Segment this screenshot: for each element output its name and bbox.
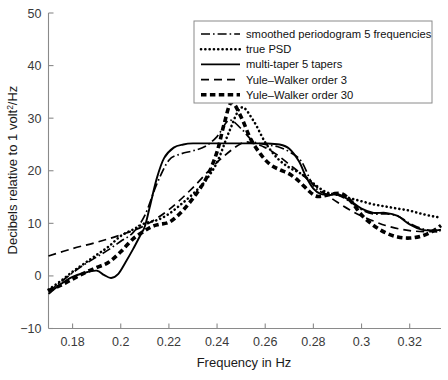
y-tick-label: 10 bbox=[28, 217, 42, 231]
legend[interactable]: smoothed periodogram 5 frequenciestrue P… bbox=[194, 21, 432, 103]
y-axis-title: Decibels relative to 1 volt2/Hz bbox=[5, 86, 20, 255]
chart-figure: −1001020304050 0.180.20.220.240.260.280.… bbox=[0, 0, 448, 380]
x-tick-label: 0.28 bbox=[301, 335, 325, 349]
x-tick-label: 0.26 bbox=[253, 335, 277, 349]
legend-label-3: Yule–Walker order 3 bbox=[246, 74, 347, 86]
y-tick-label: 40 bbox=[28, 59, 42, 73]
y-axis-title-tail: /Hz bbox=[5, 86, 20, 106]
psd-comparison-chart: −1001020304050 0.180.20.220.240.260.280.… bbox=[0, 0, 448, 380]
x-axis-title: Frequency in Hz bbox=[197, 355, 292, 370]
y-tick-label: 50 bbox=[28, 7, 42, 21]
x-tick-label: 0.3 bbox=[353, 335, 370, 349]
legend-label-0: smoothed periodogram 5 frequencies bbox=[246, 28, 432, 40]
legend-label-4: Yule–Walker order 30 bbox=[246, 89, 353, 101]
y-axis-title-main: Decibels relative to 1 volt bbox=[5, 109, 20, 254]
x-tick-label: 0.18 bbox=[60, 335, 84, 349]
x-tick-label: 0.2 bbox=[112, 335, 129, 349]
x-tick-label: 0.22 bbox=[157, 335, 181, 349]
y-tick-label: 0 bbox=[35, 269, 42, 283]
x-tick-label: 0.24 bbox=[205, 335, 229, 349]
y-tick-label: −10 bbox=[20, 322, 41, 336]
legend-label-2: multi-taper 5 tapers bbox=[246, 58, 343, 70]
y-tick-label: 30 bbox=[28, 112, 42, 126]
y-tick-label: 20 bbox=[28, 164, 42, 178]
legend-label-1: true PSD bbox=[246, 43, 291, 55]
x-tick-label: 0.32 bbox=[398, 335, 422, 349]
